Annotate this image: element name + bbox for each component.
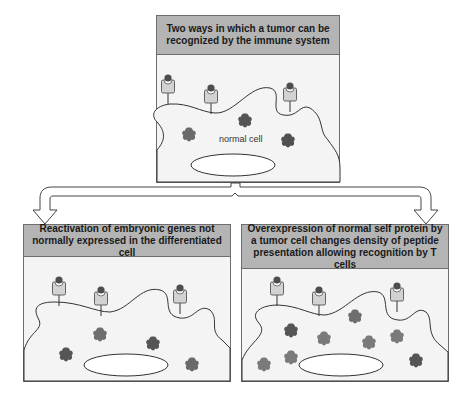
overexpression-cell — [242, 276, 448, 381]
normal-cell-label: normal cell — [219, 134, 263, 144]
normal-cell — [154, 74, 340, 182]
diagram-graphics — [0, 0, 467, 400]
branch-arrow — [33, 183, 438, 224]
embryonic-gene-cell — [24, 276, 230, 381]
